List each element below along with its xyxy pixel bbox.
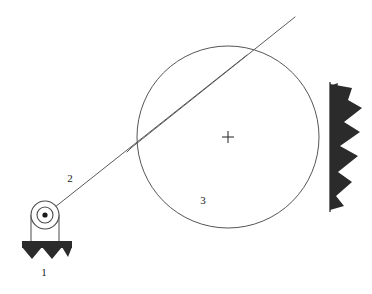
mechanics-diagram: 1 2 3: [0, 0, 372, 294]
drum-center-cross-icon: [222, 131, 234, 143]
pulley-hub-dot: [42, 212, 47, 217]
label-cable: 2: [67, 172, 73, 184]
wall-hatching: [330, 84, 362, 210]
ground-support-group: [22, 241, 72, 259]
pulley-group: [31, 201, 59, 242]
cable-group: [45, 17, 295, 215]
cable-strand-lower: [45, 55, 247, 215]
ground-base-teeth: [22, 247, 72, 259]
technical-diagram-canvas: 1 2 3: [0, 0, 372, 294]
label-drum: 3: [200, 194, 206, 206]
drum-group: [137, 46, 319, 228]
ground-base-band: [22, 241, 72, 248]
label-pulley: 1: [41, 266, 47, 278]
wall-group: [330, 82, 362, 212]
